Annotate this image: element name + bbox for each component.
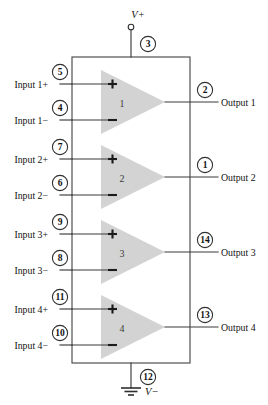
input-label-3-plus: Input 3+	[14, 229, 48, 240]
output-label-3: Output 3	[221, 247, 256, 258]
amp-number-1: 1	[120, 98, 125, 109]
input-label-1-minus: Input 1−	[14, 115, 48, 126]
pin-number-13: 13	[200, 310, 210, 320]
input-label-1-plus: Input 1+	[14, 79, 48, 90]
amp-number-2: 2	[120, 173, 125, 184]
amp-triangle-1	[101, 70, 165, 134]
input-label-3-minus: Input 3−	[14, 265, 48, 276]
pin-number-7: 7	[58, 142, 63, 152]
pin-number-11: 11	[56, 292, 65, 302]
pin-number-8: 8	[58, 253, 63, 263]
output-label-1: Output 1	[221, 97, 256, 108]
pin-number-12: 12	[143, 372, 153, 382]
pin-number-10: 10	[55, 328, 65, 338]
input-label-4-plus: Input 4+	[14, 304, 48, 315]
pin-number-1: 1	[203, 160, 208, 170]
amp-number-3: 3	[120, 248, 125, 259]
amp-triangle-3	[101, 220, 165, 284]
schematic-canvas: V+ 3 1 5 Input 1+ 4 Input 1− 2 Output 1 …	[0, 0, 268, 405]
pin-number-4: 4	[58, 103, 63, 113]
vplus-label: V+	[131, 9, 145, 20]
pin-number-9: 9	[58, 217, 63, 227]
circuit-diagram: V+ 3 1 5 Input 1+ 4 Input 1− 2 Output 1 …	[0, 0, 268, 405]
pin-number-14: 14	[200, 235, 210, 245]
input-label-2-plus: Input 2+	[14, 154, 48, 165]
pin-number-5: 5	[58, 67, 63, 77]
output-label-4: Output 4	[221, 322, 256, 333]
amp-number-4: 4	[120, 323, 125, 334]
amp-triangle-2	[101, 145, 165, 209]
output-label-2: Output 2	[221, 172, 256, 183]
pin-number-2: 2	[203, 85, 208, 95]
ground-icon	[121, 388, 141, 395]
input-label-4-minus: Input 4−	[14, 340, 48, 351]
amp-triangle-4	[101, 295, 165, 359]
pin-number-3: 3	[146, 39, 151, 49]
vplus-terminal-node	[128, 24, 134, 30]
vminus-label: V−	[145, 386, 159, 397]
pin-number-6: 6	[58, 178, 63, 188]
input-label-2-minus: Input 2−	[14, 190, 48, 201]
